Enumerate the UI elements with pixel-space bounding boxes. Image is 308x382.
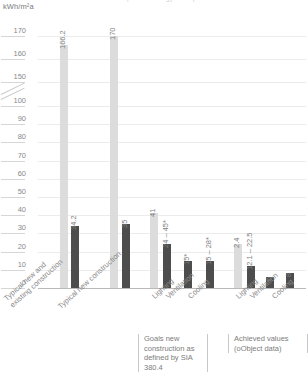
y-axis-tick-rule (1, 197, 25, 198)
y-axis-unit-label: kWh/m²a (3, 2, 34, 11)
y-axis-tick-label: 20 (0, 243, 26, 251)
gridline (38, 161, 306, 162)
chart-container: Goals to limit consumption of energy - c… (0, 0, 308, 382)
bar-value-label: 41 (149, 209, 157, 217)
bar-value-label: 166.2 (59, 30, 67, 49)
bar-value-label: 170 (109, 27, 117, 40)
annotation-note-achieved: Achieved values (oObject data) (228, 334, 308, 353)
bar-value-label: 2.4 (233, 238, 241, 248)
y-axis-tick-label: 40 (0, 206, 26, 214)
plot-area: 0102030405060708090100150160170 166.234.… (38, 18, 306, 288)
bar-value-label: 15 – 28* (205, 237, 213, 265)
y-axis-tick-label: 10 (0, 261, 26, 269)
gridline (38, 197, 306, 198)
y-axis-tick-label: 80 (0, 133, 26, 141)
gridline (38, 124, 306, 125)
y-axis-tick-label: 70 (0, 152, 26, 160)
chart-title: Goals to limit consumption of energy - c… (60, 0, 308, 2)
bar-value-label: 15* (183, 253, 191, 264)
annotation-note-goals: Goals new construction as defined by SIA… (138, 334, 208, 372)
y-axis-tick-label: 150 (0, 73, 26, 81)
y-axis-tick-label: 60 (0, 170, 26, 178)
y-axis-tick-rule (1, 179, 25, 180)
bar-value-label: 35 (121, 220, 129, 228)
y-axis-tick-label: 170 (0, 27, 26, 35)
y-axis-tick-rule (1, 270, 25, 271)
bar[interactable] (71, 226, 79, 288)
y-axis-tick-rule (1, 142, 25, 143)
bar[interactable] (122, 224, 130, 288)
bar[interactable] (150, 213, 158, 288)
y-axis-tick-rule (1, 124, 25, 125)
gridline (38, 59, 306, 60)
bar-value-label: 24 – 45* (162, 220, 170, 248)
gridline (38, 179, 306, 180)
y-axis-tick-label: 90 (0, 115, 26, 123)
y-axis-tick-label: 160 (0, 50, 26, 58)
y-axis-tick-rule (1, 59, 25, 60)
y-axis-tick-rule (1, 161, 25, 162)
y-axis-tick-rule (1, 252, 25, 253)
y-axis-tick-rule (1, 106, 25, 107)
y-axis-tick-label: 30 (0, 224, 26, 232)
gridline (38, 215, 306, 216)
gridline (38, 106, 306, 107)
gridline (38, 142, 306, 143)
bar[interactable] (234, 244, 242, 288)
gridline (38, 36, 306, 37)
y-axis-tick-label: 50 (0, 188, 26, 196)
bar-value-label: 34.2 (70, 215, 78, 230)
y-axis-break-icon (1, 94, 27, 106)
bar-value-label: 12.1 – 22.5 (246, 232, 254, 270)
bar[interactable] (60, 45, 68, 288)
y-axis-tick-rule (1, 233, 25, 234)
gridline (38, 82, 306, 83)
y-axis-tick-rule (1, 215, 25, 216)
y-axis-tick-rule (1, 36, 25, 37)
